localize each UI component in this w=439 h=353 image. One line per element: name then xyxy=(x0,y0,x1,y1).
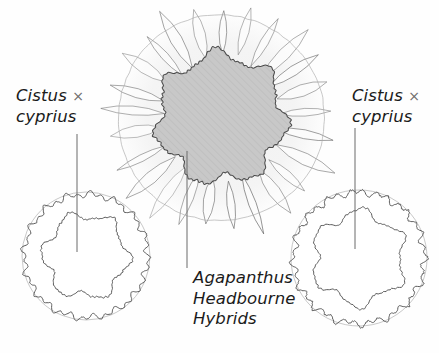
label-cistus-right-line1: Cistus xyxy=(352,86,408,105)
cistus-right-plant xyxy=(289,189,428,328)
label-cistus-right: Cistus ×cyprius xyxy=(352,86,420,127)
label-cistus-right-line2: cyprius xyxy=(352,107,412,126)
label-cistus-left-line1: Cistus xyxy=(16,86,72,105)
hybrid-cross-icon: × xyxy=(408,88,420,104)
label-cistus-left: Cistus ×cyprius xyxy=(16,86,84,127)
planting-plan-diagram: Cistus ×cyprius Cistus ×cyprius Agapanth… xyxy=(0,0,439,353)
label-cistus-left-line2: cyprius xyxy=(16,107,76,126)
hybrid-cross-icon: × xyxy=(72,88,84,104)
label-agapanthus-line2: Headbourne xyxy=(193,289,296,308)
label-agapanthus: AgapanthusHeadbourneHybrids xyxy=(193,268,296,330)
cistus-left-plant xyxy=(21,191,151,321)
label-agapanthus-line1: Agapanthus xyxy=(193,268,293,287)
label-agapanthus-line3: Hybrids xyxy=(193,309,257,328)
